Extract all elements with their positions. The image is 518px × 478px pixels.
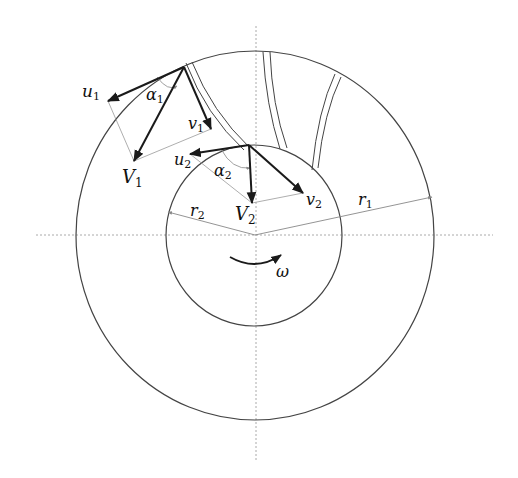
label-omega: ω xyxy=(276,262,289,281)
construction-line xyxy=(108,101,134,161)
label-r1: r1 xyxy=(358,190,373,211)
label-V1: V1 xyxy=(122,166,143,190)
r1-line xyxy=(255,197,432,235)
blades xyxy=(186,52,341,170)
label-r2: r2 xyxy=(190,201,205,222)
V1-vector xyxy=(134,67,184,161)
blade-right xyxy=(312,74,335,170)
blade-middle xyxy=(263,52,280,149)
label-u2: u2 xyxy=(174,150,191,171)
V2-vector xyxy=(249,145,252,203)
impeller-diagram: u1 α1 v1 V1 u2 α2 V2 v2 r2 r1 ω xyxy=(0,0,518,478)
label-alpha1: α1 xyxy=(146,85,164,106)
label-alpha2: α2 xyxy=(214,161,232,182)
label-V2: V2 xyxy=(235,203,256,227)
alpha2-arc xyxy=(221,149,250,168)
v2-vector xyxy=(249,145,303,193)
label-u1: u1 xyxy=(82,81,100,103)
label-v1: v1 xyxy=(188,114,204,135)
label-v2: v2 xyxy=(306,190,322,211)
construction-line xyxy=(252,193,303,203)
